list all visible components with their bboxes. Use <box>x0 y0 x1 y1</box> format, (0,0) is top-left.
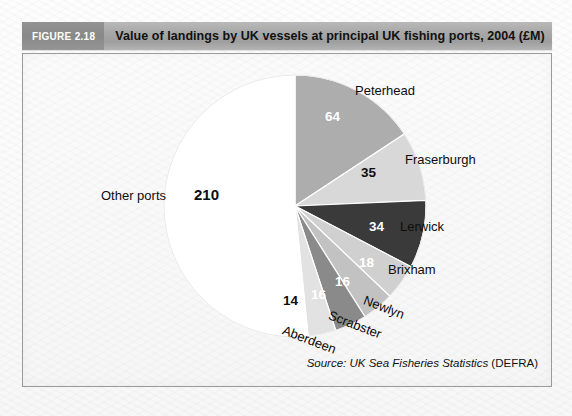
figure-number-chip: FIGURE 2.18 <box>22 22 104 50</box>
figure-title-text: Value of landings by UK vessels at princ… <box>104 29 544 43</box>
pie-value-aberdeen: 14 <box>283 293 298 308</box>
pie-value-peterhead: 64 <box>325 109 340 124</box>
source-text: Source: UK Sea Fisheries Statistics <box>307 357 489 369</box>
pie-value-scrabster: 16 <box>311 287 326 302</box>
pie-label-lerwick: Lerwick <box>400 219 444 234</box>
pie-value-lerwick: 34 <box>369 219 384 234</box>
pie-label-fraserburgh: Fraserburgh <box>405 152 476 167</box>
pie-label-other-ports: Other ports <box>101 188 166 203</box>
figure-source: Source: UK Sea Fisheries Statistics (DEF… <box>0 357 538 369</box>
pie-label-brixham: Brixham <box>388 262 436 277</box>
pie-value-brixham: 18 <box>359 255 374 270</box>
pie-value-other-ports: 210 <box>194 186 219 203</box>
pie-value-newlyn: 16 <box>335 274 350 289</box>
pie-value-fraserburgh: 35 <box>361 165 376 180</box>
figure-title-bar: FIGURE 2.18 Value of landings by UK vess… <box>22 22 552 50</box>
pie-label-peterhead: Peterhead <box>355 83 415 98</box>
source-agency: (DEFRA) <box>491 357 538 369</box>
